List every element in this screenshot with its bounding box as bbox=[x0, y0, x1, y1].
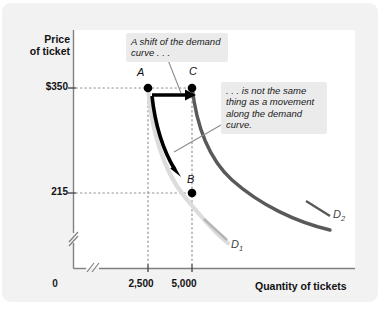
movement-callout: . . . is not the same thing as a movemen… bbox=[221, 82, 327, 134]
point-c-label: C bbox=[189, 65, 197, 77]
shift-callout: A shift of the demand curve . . . bbox=[126, 33, 228, 62]
y-axis-title-line2: of ticket bbox=[30, 45, 70, 57]
y-axis-title-line1: Price bbox=[44, 33, 70, 45]
d2-label-subscript: 2 bbox=[341, 214, 345, 223]
y-axis-title: Priceof ticket bbox=[14, 33, 70, 57]
x-tick-label-2500: 2,500 bbox=[120, 278, 162, 289]
y-tick-label-350: $350 bbox=[20, 81, 68, 92]
point-c-marker bbox=[188, 84, 197, 93]
x-tick-label-5000: 5,000 bbox=[163, 278, 205, 289]
gridline-group bbox=[76, 88, 192, 266]
x-tick-label-zero: 0 bbox=[48, 278, 62, 289]
d1-label-text: D bbox=[231, 238, 239, 250]
demand-curve-d1-label: D1 bbox=[231, 238, 243, 253]
x-axis-title: Quantity of tickets bbox=[255, 280, 355, 292]
d1-label-leader-line bbox=[204, 219, 227, 240]
point-a-marker bbox=[144, 84, 153, 93]
d1-label-subscript: 1 bbox=[239, 244, 243, 253]
y-tick-label-215: 215 bbox=[20, 186, 68, 197]
figure-root: Priceof ticket Quantity of tickets $350 … bbox=[0, 0, 384, 309]
point-b-marker bbox=[188, 189, 197, 198]
demand-curve-d1 bbox=[148, 88, 228, 243]
d2-label-text: D bbox=[333, 208, 341, 220]
point-b-label: B bbox=[187, 173, 194, 185]
point-a-label: A bbox=[137, 66, 144, 78]
d2-label-leader-line bbox=[306, 201, 330, 216]
demand-curve-d2-label: D2 bbox=[333, 208, 345, 223]
movement-callout-leader-line bbox=[174, 125, 221, 152]
